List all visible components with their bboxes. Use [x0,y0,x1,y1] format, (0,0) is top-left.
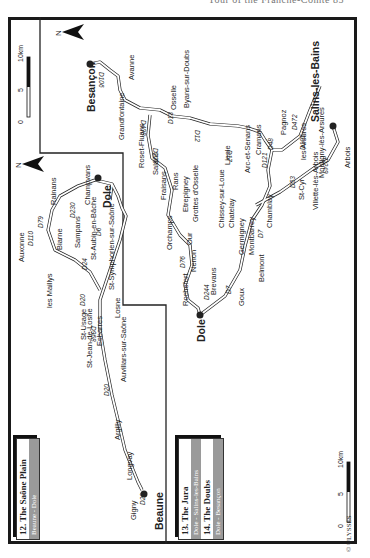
road-d79: D79 [38,216,45,228]
town-rochefort: Rochefort [182,273,190,306]
road-d244: D244 [204,284,211,300]
road-d228: D228 [152,148,159,164]
town-montbarrey: Montbarrey [248,217,256,255]
legend-jura-doubs: 13. The Jura Dole - Salins-les-Bains 14.… [178,438,224,540]
town-nenon: Nenon [190,250,198,272]
town-arbois: Arbois [344,147,352,168]
town-auxonne: Auxonne [18,232,26,262]
legend-title: 14. The Doubs [201,439,213,539]
town-gigny: Gigny [130,500,138,520]
north-label: N [15,162,23,168]
town-rainans: Rainans [50,177,58,205]
town-chamblay: Chamblay [266,194,274,228]
town-villette: Villette-lès-Arbois [312,152,320,210]
scale-label-5: 5 [337,492,344,496]
scale-label-10: 10km [337,451,344,468]
road-d20a: D20 [80,294,87,306]
town-rans: Rans [172,172,180,190]
town-st-cyr: St-Cyr [298,179,306,200]
road-d110: D110 [28,231,35,246]
legend-title: 13. The Jura [179,439,191,539]
town-byans: Byans-sur-Doubs [183,50,191,108]
town-germigney: Germigney [238,218,246,255]
road-d24: D24 [82,258,89,270]
town-st-symphorien: St-Symphorien-sur-Saône [108,203,116,290]
road-d17: D17 [226,150,233,162]
north-label: N [55,30,63,36]
scale-label-0: 0 [337,524,344,528]
road-d249: D249 [322,158,329,174]
north-arrow-icon [62,24,84,40]
road-d48: D48 [268,138,275,150]
scale-bar [347,462,350,522]
town-orchamps: Orchamps [166,215,174,250]
town-sampans: Sampans [74,216,82,248]
town-grottes: Grottes d'Osselle [192,165,200,222]
town-etrepigney: Etrepigney [182,176,190,212]
town-fraisans: Fraisans [160,171,168,200]
town-argilly: Argilly [114,420,122,440]
town-dole: Dole [196,319,207,342]
road-d53: D53 [290,176,297,188]
town-goux: Goux [238,288,246,306]
town-our: Our [186,232,194,245]
road-d408: D408 [140,120,147,136]
road-d968: D968 [90,326,97,342]
town-brevans: Brevans [210,267,218,295]
road-d121: D121 [262,152,269,168]
road-d7b: D7 [258,230,265,238]
town-avanne: Avanne [128,55,136,80]
road-d20b: D20 [104,384,111,396]
legend-route: Beaune - Dole [29,439,39,539]
town-pagnoz: Pagnoz [280,110,288,135]
legend-saone-plain: 12. The Saône Plain Beaune - Dole [16,438,40,540]
scale-label-5: 5 [17,88,24,92]
panel-divider [40,17,166,544]
scale-bar [27,57,30,117]
road-d76: D76 [180,256,187,268]
town-osselle: Osselle [170,85,178,110]
town-esbarres: Esbarres [96,316,104,346]
road-d13: D13 [168,112,175,124]
town-cramans: Cramans [255,125,263,155]
scale-label-0: 0 [17,120,24,124]
road-d20c: D20 [140,493,147,505]
town-arc: Arc-et-Senans [244,125,252,173]
town-beaune: Beaune [154,492,165,530]
north-arrow-icon [22,156,44,172]
town-besancon: Besançon [86,62,97,112]
town-auvillars: Auvillars-sur-Saône [120,317,128,382]
town-biarne: Biarne [56,228,64,250]
town-chissey: Chissey-sur-Loue [218,169,226,228]
legend-route: Dole - Salins-les-Bains [191,439,201,539]
road-d106: D106 [98,72,105,88]
road-d230: D230 [70,202,77,218]
road-d105: D105 [300,134,307,150]
road-d7a: D7 [226,286,233,294]
copyright: © ULYSSES [345,515,353,552]
town-longvay: Longvay [126,452,134,480]
road-d472: D472 [292,114,299,130]
town-chatelay: Chatelay [228,198,236,228]
town-belmont: Belmont [258,254,266,282]
scale-label-10: 10km [17,45,24,62]
town-grandfontaine: Grandfontaine [118,92,126,140]
legend-route: Dole - Besançon [213,439,223,539]
road-d12: D12 [194,130,201,142]
town-losne: Losne [114,298,122,318]
road-d6: D6 [96,228,103,236]
town-les-maillys: les Maillys [46,273,54,308]
legend-title: 12. The Saône Plain [17,439,29,539]
